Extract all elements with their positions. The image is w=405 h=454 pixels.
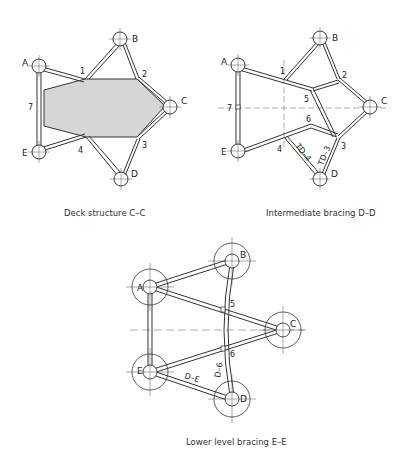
node-label-e: E [137, 366, 143, 376]
point-label-2: 2 [142, 70, 147, 79]
node-label-b: B [132, 34, 138, 44]
bracing-diagrams: A E B C D 1 2 3 4 7 [0, 0, 405, 454]
member-label-d6: D–6 [213, 362, 225, 379]
caption-intermediate-bracing: Intermediate bracing D–D [266, 208, 376, 218]
point-label-3: 3 [341, 142, 346, 151]
node-label-a: A [137, 283, 144, 293]
node-label-d: D [331, 169, 338, 179]
point-label-3: 3 [142, 141, 147, 150]
node-label-c: C [290, 319, 296, 329]
node-label-d: D [131, 169, 138, 179]
point-label-7: 7 [28, 103, 33, 112]
point-label-1: 1 [280, 67, 285, 76]
caption-lower-level-bracing: Lower level bracing E–E [186, 437, 287, 447]
node-label-a: A [221, 57, 228, 67]
intermediate-bracing-diagram: A E B C D 1 2 3 4 5 6 7 TD–4 TD–3 [218, 27, 390, 190]
node-label-b: B [332, 33, 338, 43]
point-label-4: 4 [277, 145, 282, 154]
node-label-c: C [181, 96, 187, 106]
deck-structure-diagram: A E B C D 1 2 3 4 7 [22, 28, 187, 190]
caption-deck-structure: Deck structure C–C [64, 208, 145, 218]
node-label-d: D [240, 394, 247, 404]
point-label-5: 5 [230, 300, 235, 309]
point-label-5: 5 [304, 95, 309, 104]
node-label-e: E [221, 147, 227, 157]
lower-level-bracing-diagram: A B C E D 5 6 D–E D–6 [126, 237, 305, 423]
point-label-2: 2 [342, 71, 347, 80]
node-label-a: A [22, 58, 29, 68]
node-label-e: E [22, 148, 28, 158]
member-label-td3: TD–3 [316, 145, 332, 168]
node-label-b: B [240, 250, 246, 260]
point-label-6: 6 [230, 350, 235, 359]
point-label-4: 4 [78, 146, 83, 155]
point-label-6: 6 [306, 115, 311, 124]
node-label-c: C [381, 96, 387, 106]
point-label-7: 7 [227, 104, 232, 113]
point-label-1: 1 [80, 67, 85, 76]
